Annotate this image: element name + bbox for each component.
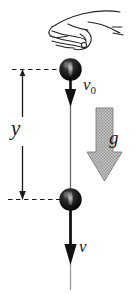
displacement-label: y: [11, 118, 20, 139]
ball-at-release: [59, 58, 81, 80]
initial-velocity-symbol: v: [83, 75, 91, 94]
final-velocity-label: v: [79, 238, 87, 255]
velocity-arrow-bottom: [64, 205, 76, 265]
initial-velocity-subscript: 0: [91, 84, 97, 96]
gravity-label: g: [109, 128, 119, 147]
hand-icon: [49, 11, 123, 50]
initial-velocity-label: v0: [83, 76, 96, 96]
